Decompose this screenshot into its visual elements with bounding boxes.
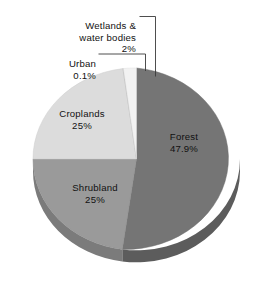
slice-label-croplands: Croplands 25% bbox=[46, 108, 118, 131]
slice-label-forest-name: Forest bbox=[170, 131, 198, 142]
slice-label-shrubland-name: Shrubland bbox=[72, 182, 117, 193]
slice-label-shrubland-value: 25% bbox=[57, 194, 133, 206]
slice-label-forest: Forest 47.9% bbox=[152, 131, 216, 154]
pie-chart: Wetlands & water bodies 2% Urban 0.1% Fo… bbox=[0, 0, 271, 283]
slice-label-shrubland: Shrubland 25% bbox=[57, 182, 133, 205]
callout-wetlands-name: Wetlands & water bodies bbox=[79, 20, 136, 42]
callout-urban-name: Urban bbox=[69, 58, 96, 69]
slice-label-croplands-name: Croplands bbox=[59, 108, 104, 119]
callout-urban-value: 0.1% bbox=[24, 70, 96, 81]
callout-label-urban: Urban 0.1% bbox=[24, 47, 96, 92]
slice-label-croplands-value: 25% bbox=[46, 120, 118, 132]
leader-line-wetlands bbox=[140, 17, 156, 77]
slice-label-forest-value: 47.9% bbox=[152, 143, 216, 155]
pie-top-face bbox=[33, 68, 228, 249]
